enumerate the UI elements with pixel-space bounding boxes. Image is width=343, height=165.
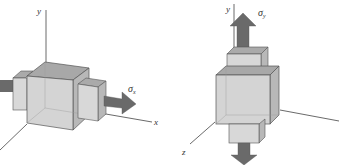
right-diagram: y z σy — [181, 4, 339, 165]
right-cube-side — [270, 66, 279, 124]
right-small-block-front — [78, 84, 98, 121]
right-z-axis-label: z — [181, 147, 186, 157]
stress-diagram-figure: y x σx y z — [0, 0, 343, 165]
left-cube-front — [27, 76, 73, 130]
diagram-canvas: y x σx y z — [0, 0, 343, 165]
left-z-axis — [0, 124, 27, 150]
left-stress-arrow-pos — [104, 92, 136, 114]
right-y-axis-label: y — [225, 4, 230, 14]
right-cube-top — [216, 66, 279, 75]
left-x-axis-label: x — [153, 117, 158, 127]
sigma-x-label: σx — [128, 83, 136, 95]
sigma-y-label: σy — [258, 7, 266, 19]
left-stress-arrow-neg — [0, 80, 14, 92]
bottom-small-block-front — [229, 124, 259, 143]
right-z-axis — [190, 122, 215, 144]
right-stress-arrow-neg — [231, 143, 257, 165]
right-x-axis — [280, 110, 339, 121]
left-small-block-front — [13, 78, 27, 110]
left-y-axis-label: y — [36, 6, 41, 16]
left-diagram: y x σx — [0, 6, 158, 150]
left-x-axis — [100, 113, 152, 122]
